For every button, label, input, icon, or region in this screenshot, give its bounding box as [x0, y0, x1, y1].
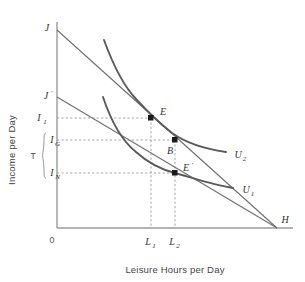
chart-svg: Income per Day Leisure Hours per Day 0 J…: [0, 0, 305, 282]
origin-tick-label: 0: [49, 235, 54, 245]
label-point-e-prime-mark: ': [191, 161, 193, 169]
label-tax-t: T: [30, 151, 35, 161]
label-point-e: E: [159, 106, 166, 117]
y-axis-title: Income per Day: [6, 115, 17, 185]
label-income-in: I: [49, 167, 54, 178]
label-hours-h: H: [280, 214, 289, 225]
label-income-ig: I: [49, 134, 54, 145]
indifference-curve-u1: [103, 97, 233, 188]
labor-leisure-chart: Income per Day Leisure Hours per Day 0 J…: [0, 0, 305, 282]
label-point-e-prime: E: [182, 162, 189, 173]
label-income-in-sub: N: [54, 173, 60, 181]
label-income-i1: I: [36, 112, 41, 123]
indifference-curve-u2: [104, 40, 226, 152]
point-marker-b: [172, 137, 178, 143]
label-leisure-l2: L: [168, 236, 175, 247]
label-budget-j-prime: J: [44, 90, 49, 101]
label-budget-j-prime-mark: ': [51, 89, 53, 97]
label-curve-u2-sub: 2: [243, 155, 247, 163]
label-leisure-l2-sub: 2: [176, 242, 180, 250]
tax-brace-group: [43, 133, 47, 178]
label-income-ig-sub: G: [55, 140, 60, 148]
label-leisure-l1: L: [144, 236, 151, 247]
point-marker-e-prime: [172, 170, 178, 176]
label-income-i1-sub: 1: [43, 118, 47, 126]
label-curve-u1: U: [242, 184, 250, 195]
label-curve-u2: U: [234, 149, 242, 160]
indifference-curves-group: [103, 40, 233, 188]
point-marker-e: [148, 115, 154, 121]
guide-lines-group: [57, 118, 175, 228]
label-leisure-l1-sub: 1: [152, 242, 156, 250]
axes-group: [57, 22, 293, 228]
text-labels-group: Income per Day Leisure Hours per Day 0 J…: [6, 22, 289, 275]
x-axis-title: Leisure Hours per Day: [125, 264, 224, 275]
budget-line-jprime-h: [57, 97, 277, 228]
label-budget-j: J: [45, 22, 50, 33]
label-curve-u1-sub: 1: [251, 190, 255, 198]
label-point-b: B: [167, 145, 173, 156]
